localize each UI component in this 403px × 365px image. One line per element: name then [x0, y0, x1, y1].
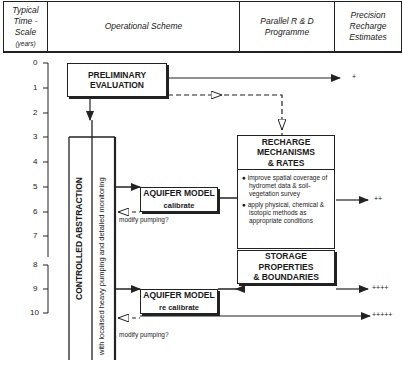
box-text: STORAGE [265, 251, 307, 262]
modify-pumping-label: modify pumping? [119, 216, 169, 223]
tick-label: 3 [33, 132, 37, 141]
precision-estimate: ++ [374, 195, 382, 202]
tick-label: 2 [33, 108, 37, 117]
box-text: & BOUNDARIES [253, 272, 319, 283]
tick-label: 6 [33, 207, 37, 216]
tick-label: 9 [33, 284, 37, 293]
box-text: & RATES [268, 158, 305, 169]
controlled-abstraction-label: CONTROLLED ABSTRACTION [74, 177, 84, 300]
preliminary-evaluation-box: PRELIMINARY EVALUATION [67, 63, 167, 97]
recharge-mechanisms-box: RECHARGE MECHANISMS & RATES [237, 135, 335, 169]
tick-label: 7 [33, 231, 37, 240]
tick-label: 0 [33, 58, 37, 67]
box-subtext: calibrate [164, 201, 195, 212]
box-text: RECHARGE [262, 137, 311, 148]
precision-estimate: + [352, 73, 356, 80]
tick-label: 10 [30, 308, 39, 317]
bullet-item: ● apply physical, chemical & isotopic me… [242, 201, 332, 226]
monitoring-label: with localised heavy pumping and detaile… [97, 177, 106, 355]
precision-estimate: ++++ [372, 284, 388, 291]
tick-label: 8 [33, 260, 37, 269]
box-text: AQUIFER MODEL [143, 290, 214, 301]
recharge-methods-panel: ● improve spatial coverage of hydromet d… [237, 169, 335, 249]
tick-label: 5 [33, 182, 37, 191]
precision-estimate: +++++ [372, 311, 392, 318]
tick-label: 1 [33, 83, 37, 92]
storage-properties-box: STORAGE PROPERTIES & BOUNDARIES [237, 250, 335, 284]
box-text: EVALUATION [90, 80, 144, 91]
box-subtext: re calibrate [159, 303, 199, 314]
tick-label: 4 [33, 157, 37, 166]
box-text: PROPERTIES [259, 262, 314, 273]
box-text: AQUIFER MODEL [143, 188, 214, 199]
box-text: PRELIMINARY [88, 70, 146, 81]
modify-pumping-label: modify pumping? [119, 331, 169, 338]
box-text: MECHANISMS [257, 147, 315, 158]
aquifer-model-recalibrate-box: AQUIFER MODEL re calibrate [140, 289, 218, 314]
aquifer-model-calibrate-box: AQUIFER MODEL calibrate [140, 187, 218, 212]
bullet-item: ● improve spatial coverage of hydromet d… [242, 174, 332, 199]
